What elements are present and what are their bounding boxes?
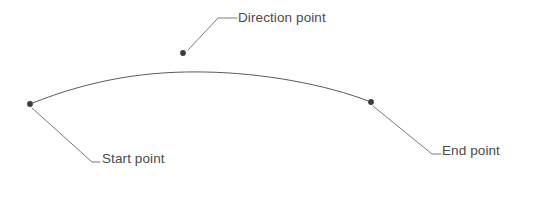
diagram-canvas: Direction point Start point End point bbox=[0, 0, 540, 204]
direction-point-marker bbox=[180, 50, 186, 56]
direction-point-label: Direction point bbox=[238, 10, 326, 26]
arc-curve bbox=[30, 72, 371, 104]
leader-line-start-point bbox=[32, 108, 100, 162]
leader-line-direction-point bbox=[188, 18, 237, 50]
leader-line-end-point bbox=[373, 106, 441, 154]
curve-group bbox=[30, 72, 371, 104]
point-markers-group bbox=[27, 50, 374, 107]
start-point-marker bbox=[27, 101, 33, 107]
end-point-label: End point bbox=[442, 143, 500, 159]
end-point-marker bbox=[368, 99, 374, 105]
start-point-label: Start point bbox=[102, 151, 165, 167]
curve-diagram bbox=[0, 0, 540, 204]
leader-lines-group bbox=[32, 18, 441, 162]
